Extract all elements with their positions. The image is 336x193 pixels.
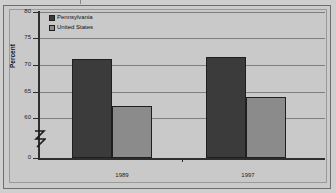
x-tick-label-1989: 1989 <box>92 172 152 178</box>
legend-label-pennsylvania: Pennsylvania <box>57 14 93 21</box>
x-tick-label-1997: 1997 <box>218 172 278 178</box>
y-tick-mark-70 <box>33 65 38 66</box>
legend-swatch-icon-united-states <box>49 25 55 31</box>
chart-legend: Pennsylvania United States <box>49 13 93 33</box>
legend-swatch-icon-pennsylvania <box>49 15 55 21</box>
y-tick-label-60: 60 <box>15 114 31 121</box>
y-tick-label-80: 80 <box>15 8 31 15</box>
bar-united-states-1989 <box>112 106 152 158</box>
y-tick-mark-60 <box>33 118 38 119</box>
y-tick-mark-65 <box>33 92 38 93</box>
y-axis-title: Percent <box>9 44 16 68</box>
gridline-75 <box>38 38 325 39</box>
y-tick-label-0: 0 <box>15 154 31 161</box>
top-tick-mark <box>80 0 81 4</box>
legend-item-united-states: United States <box>49 23 93 32</box>
bar-united-states-1997 <box>246 97 286 158</box>
plot-area <box>38 12 325 158</box>
legend-item-pennsylvania: Pennsylvania <box>49 13 93 22</box>
y-tick-label-65: 65 <box>15 88 31 95</box>
bar-pennsylvania-1989 <box>72 59 112 158</box>
x-tick-mark-center <box>182 158 183 162</box>
y-tick-mark-75 <box>33 38 38 39</box>
y-tick-mark-80 <box>33 12 38 13</box>
y-tick-mark-0 <box>33 158 38 159</box>
legend-label-united-states: United States <box>57 24 93 31</box>
y-tick-label-70: 70 <box>15 61 31 68</box>
bar-pennsylvania-1997 <box>206 57 246 158</box>
axis-break-icon <box>33 128 46 148</box>
y-tick-label-75: 75 <box>15 34 31 41</box>
chart-figure: 80 75 70 65 60 0 Percent 1989 1997 Penns… <box>0 0 336 193</box>
